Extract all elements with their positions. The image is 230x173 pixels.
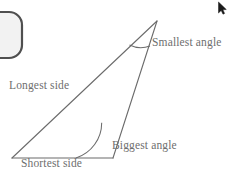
label-smallest-angle: Smallest angle	[152, 36, 222, 49]
mouse-cursor	[219, 2, 227, 14]
label-shortest-side: Shortest side	[21, 157, 82, 170]
label-biggest-angle: Biggest angle	[112, 139, 177, 152]
label-longest-side: Longest side	[9, 79, 69, 92]
biggest-angle-arc	[76, 123, 102, 158]
smallest-angle-arc	[130, 45, 151, 48]
diagram-canvas: Smallest angle Longest side Biggest angl…	[0, 0, 230, 173]
rounded-rectangle-shape	[0, 12, 22, 58]
